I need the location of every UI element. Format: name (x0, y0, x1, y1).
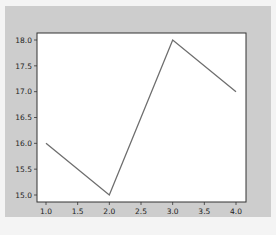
y-axis: 15.015.516.016.517.017.518.0 (15, 36, 37, 200)
y-tick-label: 15.5 (15, 165, 32, 174)
x-tick-label: 1.5 (72, 207, 84, 216)
x-tick-label: 3.5 (198, 207, 210, 216)
y-tick-label: 16.5 (15, 113, 32, 122)
y-tick-label: 16.0 (15, 139, 32, 148)
y-tick-label: 18.0 (15, 36, 32, 45)
line-chart: 15.015.516.016.517.017.518.0 1.01.52.02.… (0, 0, 276, 235)
x-axis: 1.01.52.02.53.03.54.0 (40, 202, 242, 216)
y-tick-label: 15.0 (15, 191, 32, 200)
x-tick-label: 3.0 (167, 207, 179, 216)
x-tick-label: 1.0 (40, 207, 52, 216)
x-tick-label: 2.5 (135, 207, 147, 216)
y-tick-label: 17.0 (15, 87, 32, 96)
y-tick-label: 17.5 (15, 62, 32, 71)
x-tick-label: 2.0 (103, 207, 115, 216)
x-tick-label: 4.0 (230, 207, 242, 216)
